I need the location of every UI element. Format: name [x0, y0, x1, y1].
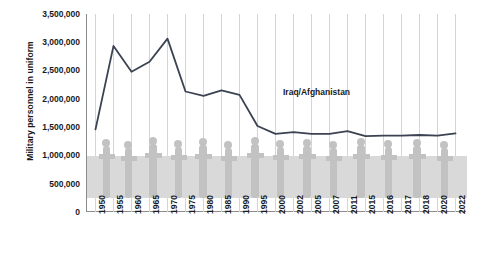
- x-tick-label: 1965: [152, 195, 161, 214]
- y-tick-label: 1,000,000: [24, 151, 80, 160]
- x-tick-label: 2022: [458, 195, 467, 214]
- x-tick-label: 2000: [278, 195, 287, 214]
- x-tick-label: 1955: [116, 195, 125, 214]
- y-tick-label: 1,500,000: [24, 123, 80, 132]
- y-tick-label: 500,000: [24, 180, 80, 189]
- chart-container: Military personnel in uniform 3,500,000 …: [0, 0, 486, 259]
- y-tick-label: 2,000,000: [24, 95, 80, 104]
- x-axis-tick-labels: 1950 1955 1960 1965 1970 1975 1980 1985 …: [86, 214, 467, 259]
- x-tick-label: 1995: [260, 195, 269, 214]
- x-tick-label: 1980: [206, 195, 215, 214]
- chart-svg: [87, 14, 467, 212]
- x-tick-label: 1960: [134, 195, 143, 214]
- x-tick-label: 1985: [224, 195, 233, 214]
- annotation-iraq-afghanistan: Iraq/Afghanistan: [283, 87, 350, 97]
- y-axis-tick-labels: 3,500,000 3,000,000 2,500,000 2,000,000 …: [24, 0, 80, 259]
- x-tick-label: 1975: [188, 195, 197, 214]
- x-tick-label: 1970: [170, 195, 179, 214]
- x-tick-label: 2017: [404, 195, 413, 214]
- y-tick-label: 0: [24, 208, 80, 217]
- x-tick-label: 2011: [350, 196, 359, 214]
- x-tick-label: 2015: [368, 195, 377, 214]
- x-tick-label: 2007: [332, 195, 341, 214]
- x-tick-label: 1990: [242, 195, 251, 214]
- x-tick-label: 1950: [98, 195, 107, 214]
- y-tick-label: 3,000,000: [24, 38, 80, 47]
- plot-area: Iraq/Afghanistan: [86, 14, 466, 212]
- y-tick-label: 2,500,000: [24, 66, 80, 75]
- x-tick-label: 2016: [386, 195, 395, 214]
- soldier-silhouette-band: [87, 137, 467, 198]
- y-tick-label: 3,500,000: [24, 10, 80, 19]
- x-tick-label: 2002: [296, 195, 305, 214]
- x-tick-label: 2005: [314, 195, 323, 214]
- x-tick-label: 2020: [440, 195, 449, 214]
- x-tick-label: 2018: [422, 195, 431, 214]
